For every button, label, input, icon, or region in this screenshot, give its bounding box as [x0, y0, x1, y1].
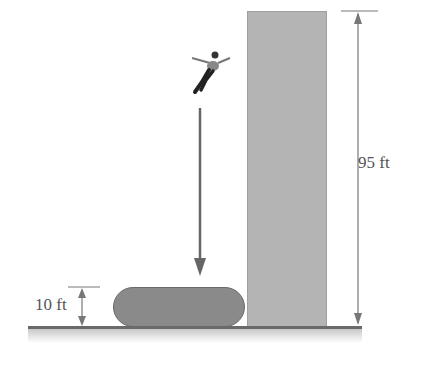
- fall-arrow: [194, 108, 206, 276]
- building-height-label: 95 ft: [358, 153, 390, 173]
- airbag-height-dimension: [68, 287, 100, 326]
- jumper-figure-icon: [192, 52, 230, 93]
- airbag-height-label: 10 ft: [35, 295, 67, 315]
